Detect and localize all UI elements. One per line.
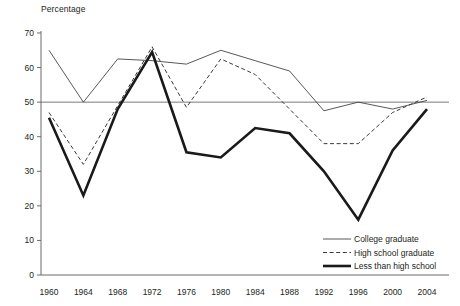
- y-tick-label: 10: [25, 235, 35, 245]
- y-tick-label: 50: [25, 97, 35, 107]
- x-tick-label: 1992: [314, 287, 333, 297]
- legend-label: High school graduate: [354, 248, 435, 258]
- x-tick-label: 1960: [40, 287, 59, 297]
- x-tick-label: 1980: [211, 287, 230, 297]
- y-tick-labels: 010203040506070: [25, 28, 35, 280]
- y-tick-label: 0: [29, 270, 34, 280]
- x-tick-label: 1988: [280, 287, 299, 297]
- y-tick-label: 70: [25, 28, 35, 38]
- x-tick-label: 2000: [383, 287, 402, 297]
- x-tick-label: 1968: [108, 287, 127, 297]
- x-tick-label: 1964: [74, 287, 93, 297]
- line-chart-svg: 010203040506070 196019641968197219761980…: [0, 0, 460, 306]
- y-tick-label: 20: [25, 201, 35, 211]
- x-tick-label: 2004: [418, 287, 437, 297]
- y-tick-label: 60: [25, 63, 35, 73]
- x-tick-label: 1996: [349, 287, 368, 297]
- x-tick-label: 1972: [143, 287, 162, 297]
- y-tick-label: 30: [25, 166, 35, 176]
- chart-figure: Percentage 010203040506070 1960196419681…: [0, 0, 460, 306]
- y-tick-label: 40: [25, 132, 35, 142]
- legend-label: College graduate: [354, 234, 419, 244]
- x-tick-label: 1976: [177, 287, 196, 297]
- legend-label: Less than high school: [354, 261, 436, 271]
- series-line-less-than-high-school: [49, 52, 427, 220]
- data-series-layer: [49, 47, 427, 220]
- x-tick-labels: 1960196419681972197619801984198819921996…: [40, 287, 437, 297]
- x-tick-label: 1984: [246, 287, 265, 297]
- series-line-high-school-graduate: [49, 47, 427, 165]
- chart-legend: College graduateHigh school graduateLess…: [323, 234, 436, 271]
